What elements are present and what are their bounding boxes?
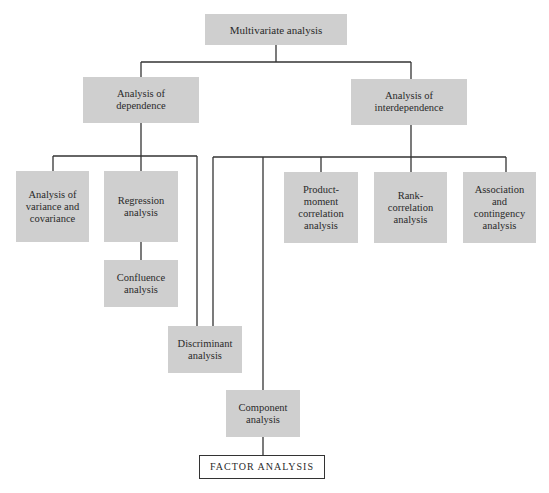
- node-regression-analysis: Regression analysis: [104, 171, 178, 242]
- node-label: Association and contingency analysis: [474, 184, 525, 232]
- node-rank-correlation: Rank- correlation analysis: [374, 172, 447, 243]
- node-product-moment-correlation: Product- moment correlation analysis: [284, 172, 358, 243]
- node-label: FACTOR ANALYSIS: [210, 461, 314, 473]
- node-analysis-of-interdependence: Analysis of interdependence: [351, 79, 467, 125]
- node-label: Discriminant analysis: [178, 338, 233, 362]
- node-component-analysis: Component analysis: [226, 390, 300, 437]
- node-association-contingency: Association and contingency analysis: [463, 172, 536, 243]
- node-label: Confluence analysis: [117, 272, 165, 296]
- node-confluence-analysis: Confluence analysis: [104, 260, 178, 307]
- node-multivariate-analysis: Multivariate analysis: [205, 14, 347, 45]
- node-label: Component analysis: [239, 402, 288, 426]
- node-analysis-of-dependence: Analysis of dependence: [83, 77, 199, 123]
- node-label: Regression analysis: [118, 195, 165, 219]
- node-label: Analysis of dependence: [116, 88, 166, 112]
- node-label: Analysis of variance and covariance: [26, 189, 79, 225]
- node-factor-analysis: FACTOR ANALYSIS: [199, 455, 325, 479]
- node-label: Product- moment correlation analysis: [298, 184, 343, 232]
- node-discriminant-analysis: Discriminant analysis: [168, 326, 242, 373]
- node-analysis-of-variance: Analysis of variance and covariance: [16, 171, 89, 242]
- node-label: Rank- correlation analysis: [388, 190, 433, 226]
- node-label: Analysis of interdependence: [375, 90, 444, 114]
- node-label: Multivariate analysis: [230, 24, 323, 36]
